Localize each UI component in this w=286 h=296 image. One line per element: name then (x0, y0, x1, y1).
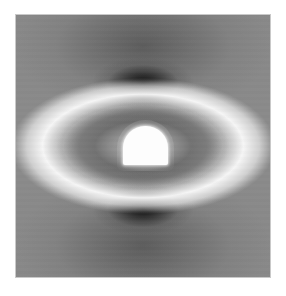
figure-container: Grayscale scalar field distribution arou… (0, 0, 286, 296)
field-plot-canvas (15, 14, 271, 278)
figure-caption: Grayscale scalar field distribution arou… (0, 0, 1, 1)
tunnel-cavity-arch (123, 126, 168, 165)
